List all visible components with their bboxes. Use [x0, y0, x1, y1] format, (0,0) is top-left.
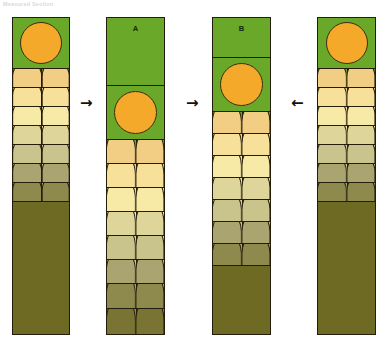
dome-shape-icon [242, 244, 270, 265]
dome-band [318, 164, 375, 183]
dome-cell [213, 156, 242, 177]
dome-cell [242, 222, 271, 243]
dome-shape-icon [347, 88, 375, 106]
dome-pair [213, 112, 270, 133]
dome-shape-icon [242, 222, 270, 243]
stratigraphic-column-4[interactable] [317, 17, 376, 335]
sun-icon [114, 91, 157, 134]
dome-pair [107, 236, 164, 259]
stratigraphic-column-2[interactable]: A [106, 17, 165, 335]
dome-cell [13, 164, 41, 182]
dome-band [107, 140, 164, 164]
stratigraphic-column-1[interactable] [12, 17, 70, 335]
dome-band [318, 183, 375, 202]
dome-cell [318, 164, 347, 182]
dome-cell [13, 126, 41, 144]
dome-pair [107, 164, 164, 187]
dome-pair [107, 284, 164, 308]
dome-cell [242, 156, 271, 177]
dome-cell [213, 200, 242, 221]
dome-cell [213, 112, 242, 133]
dome-cell [242, 134, 271, 155]
dome-cell [107, 284, 136, 308]
dome-pair [107, 140, 164, 163]
dome-shape-icon [13, 183, 42, 201]
dome-shape-icon [347, 107, 375, 125]
dome-pair [13, 88, 69, 106]
dome-cell [318, 183, 347, 201]
dome-pair [318, 107, 375, 125]
dome-band [213, 222, 270, 244]
column-label: A [133, 24, 139, 33]
dome-cell [136, 140, 165, 163]
dome-cell [136, 164, 165, 187]
dome-pair [318, 126, 375, 144]
arrow-2-icon: → [186, 96, 199, 111]
figure-caption: Measured Section [3, 1, 53, 7]
dome-band [13, 88, 69, 107]
arrow-3-icon: ← [291, 96, 304, 111]
dome-shape-icon [347, 145, 375, 163]
dome-shape-icon [136, 140, 164, 163]
dome-band [318, 69, 375, 88]
dome-shape-icon [13, 88, 42, 106]
dome-shape-icon [347, 126, 375, 144]
dome-shape-icon [213, 178, 242, 199]
dome-band [107, 260, 164, 284]
dome-cell [347, 88, 376, 106]
dome-cell [136, 236, 165, 259]
dome-pair [13, 183, 69, 201]
dome-cell [13, 145, 41, 163]
dome-band [107, 284, 164, 309]
dome-band [107, 188, 164, 212]
dome-shape-icon [242, 134, 270, 155]
dome-shape-icon [13, 164, 42, 182]
dome-shape-icon [213, 156, 242, 177]
sun-icon [326, 22, 368, 64]
dome-pair [107, 260, 164, 283]
dome-pair [213, 156, 270, 177]
arrow-1-icon: → [80, 96, 93, 111]
dome-cell [242, 178, 271, 199]
dome-band [213, 178, 270, 200]
dome-cell [107, 236, 136, 259]
dome-cell [107, 260, 136, 283]
dome-pair [318, 88, 375, 106]
sun-band [213, 58, 270, 112]
dome-shape-icon [242, 178, 270, 199]
dome-pair [213, 200, 270, 221]
dome-shape-icon [41, 164, 69, 182]
dome-band [13, 126, 69, 145]
dome-pair [318, 164, 375, 182]
dome-cell [41, 164, 69, 182]
dome-shape-icon [41, 69, 69, 87]
stratigraphic-column-3[interactable]: B [212, 17, 271, 335]
dome-pair [213, 222, 270, 243]
solid-band [13, 202, 69, 335]
dome-band [318, 107, 375, 126]
dome-shape-icon [41, 126, 69, 144]
dome-pair [13, 145, 69, 163]
dome-cell [107, 309, 136, 334]
sun-icon [20, 22, 62, 64]
dome-shape-icon [136, 236, 164, 259]
dome-cell [318, 88, 347, 106]
dome-cell [347, 164, 376, 182]
dome-cell [347, 69, 376, 87]
dome-shape-icon [136, 309, 164, 334]
column-label-band: A [107, 18, 164, 86]
dome-shape-icon [347, 164, 375, 182]
dome-shape-icon [41, 88, 69, 106]
dome-band [107, 164, 164, 188]
dome-cell [41, 126, 69, 144]
dome-cell [318, 126, 347, 144]
dome-band [13, 164, 69, 183]
dome-band [107, 309, 164, 334]
dome-pair [13, 107, 69, 125]
dome-cell [107, 140, 136, 163]
dome-shape-icon [13, 107, 42, 125]
sun-band [13, 18, 69, 69]
dome-band [107, 236, 164, 260]
dome-pair [13, 164, 69, 182]
dome-cell [213, 134, 242, 155]
